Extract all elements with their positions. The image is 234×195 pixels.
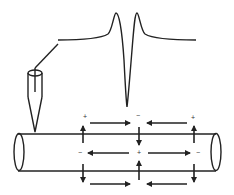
diagram-canvas	[0, 0, 234, 195]
sign-mid-mid: +	[137, 149, 141, 156]
sign-top-left: +	[83, 113, 87, 120]
waveform-trace	[58, 13, 196, 107]
sign-mid-right: −	[196, 149, 200, 156]
sign-mid-left: −	[78, 149, 82, 156]
electrode	[28, 44, 58, 132]
sign-top-right: +	[191, 114, 195, 121]
sign-top-mid: −	[136, 112, 140, 119]
